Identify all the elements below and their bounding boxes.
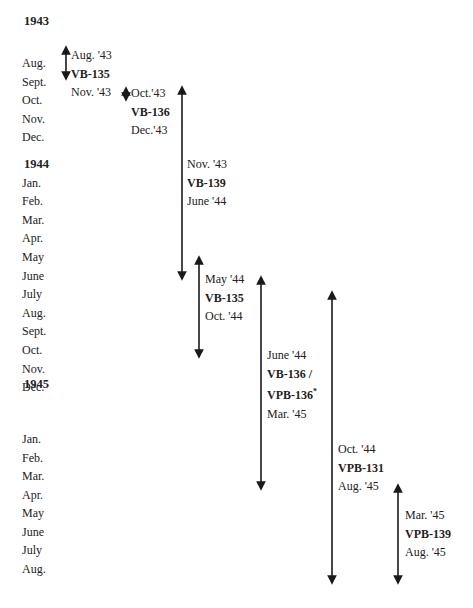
deployment-vpb131: Oct. '44 VPB-131 Aug. '45 [338, 440, 384, 496]
deployment-start: Oct. '44 [338, 440, 384, 459]
deployment-vb135-1943: Aug. '43 VB-135 Nov. '43 [71, 46, 112, 102]
squadron-name: VPB-131 [338, 459, 384, 478]
deployment-end: Mar. '45 [267, 405, 317, 424]
deployment-end: Aug. '45 [338, 477, 384, 496]
squadron-name: VPB-139 [405, 525, 451, 544]
deployment-vpb139: Mar. '45 VPB-139 Aug. '45 [405, 506, 451, 562]
deployment-end: Nov. '43 [71, 83, 112, 102]
squadron-name: VB-139 [187, 174, 227, 193]
squadron-name: VB-135 [205, 289, 244, 308]
deployment-end: June '44 [187, 192, 227, 211]
deployment-start: June '44 [267, 346, 317, 365]
deployment-start: Oct.'43 [131, 84, 170, 103]
squadron-name: VB-136 [131, 103, 170, 122]
squadron-name-2: VPB-136* [267, 383, 317, 405]
deployment-end: Aug. '45 [405, 543, 451, 562]
squadron-name: VB-135 [71, 65, 112, 84]
squadron-name: VB-136 / [267, 365, 317, 384]
deployment-vb135-1944: May '44 VB-135 Oct. '44 [205, 270, 244, 326]
deployment-end: Dec.'43 [131, 121, 170, 140]
deployment-start: Mar. '45 [405, 506, 451, 525]
deployment-vb136-vpb136: June '44 VB-136 / VPB-136* Mar. '45 [267, 346, 317, 423]
deployment-vb136-1943: Oct.'43 VB-136 Dec.'43 [131, 84, 170, 140]
deployment-end: Oct. '44 [205, 307, 244, 326]
deployment-start: Nov. '43 [187, 155, 227, 174]
deployment-vb139: Nov. '43 VB-139 June '44 [187, 155, 227, 211]
deployment-start: Aug. '43 [71, 46, 112, 65]
deployment-start: May '44 [205, 270, 244, 289]
footnote-marker: * [313, 387, 317, 396]
